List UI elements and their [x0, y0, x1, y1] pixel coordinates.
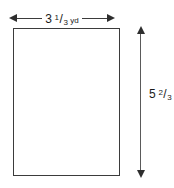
- height-fraction-denominator: 3: [167, 94, 171, 102]
- dimension-line-right-segment: [82, 18, 107, 19]
- arrow-up-icon: [137, 26, 145, 34]
- dimension-line-left-segment: [17, 18, 42, 19]
- dimension-line-vertical-segment: [140, 34, 141, 170]
- width-dimension-label: 3 1 / 3 yd: [42, 9, 82, 27]
- width-dimension-arrow: 3 1 / 3 yd: [9, 8, 115, 28]
- width-fraction: 1 / 3: [55, 13, 68, 25]
- width-fraction-denominator: 3: [63, 19, 67, 27]
- arrow-left-icon: [9, 14, 17, 22]
- height-measurement: 5 2 / 3 yd: [149, 88, 174, 100]
- height-fraction: 2 / 3: [158, 88, 171, 100]
- height-dimension-label: 5 2 / 3 yd: [149, 0, 174, 188]
- width-unit-label: yd: [70, 17, 78, 25]
- height-dimension-arrow: [135, 26, 146, 178]
- width-measurement: 3 1 / 3 yd: [45, 13, 79, 25]
- arrow-right-icon: [107, 14, 115, 22]
- geometry-diagram: 3 1 / 3 yd 5 2 / 3 yd: [0, 0, 174, 188]
- height-whole-number: 5: [149, 88, 156, 100]
- width-fraction-numerator: 1: [55, 14, 59, 22]
- rectangle-shape: [13, 28, 120, 176]
- arrow-down-icon: [137, 170, 145, 178]
- height-fraction-numerator: 2: [158, 89, 162, 97]
- width-whole-number: 3: [45, 13, 52, 25]
